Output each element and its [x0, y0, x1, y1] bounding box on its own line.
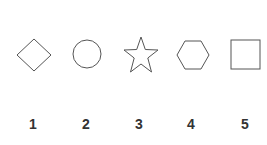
star-shape [124, 37, 158, 72]
label-4: 4 [181, 116, 201, 132]
diamond-shape [17, 39, 51, 71]
label-5: 5 [235, 116, 255, 132]
label-2: 2 [76, 116, 96, 132]
square-shape [231, 40, 260, 69]
circle-shape [73, 40, 101, 68]
label-3: 3 [129, 116, 149, 132]
label-1: 1 [23, 116, 43, 132]
hexagon-shape [177, 41, 209, 69]
